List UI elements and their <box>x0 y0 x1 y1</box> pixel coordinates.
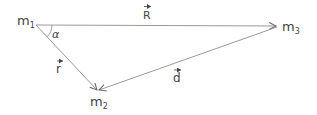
label-alpha: α <box>52 28 60 41</box>
vector-d-line <box>99 27 277 90</box>
vector-R-line <box>36 25 276 26</box>
label-R: R <box>143 7 151 23</box>
label-m3: m3 <box>282 19 300 36</box>
label-m1: m1 <box>17 13 35 30</box>
label-d: d <box>173 70 181 85</box>
label-m2: m2 <box>90 94 108 111</box>
svg-text:R: R <box>143 9 151 22</box>
svg-text:d: d <box>173 71 181 85</box>
svg-text:r: r <box>56 62 61 76</box>
vector-triangle-diagram: m1 m3 m2 R r d α <box>0 0 317 115</box>
vector-r-line <box>36 25 97 90</box>
label-r: r <box>56 61 63 76</box>
